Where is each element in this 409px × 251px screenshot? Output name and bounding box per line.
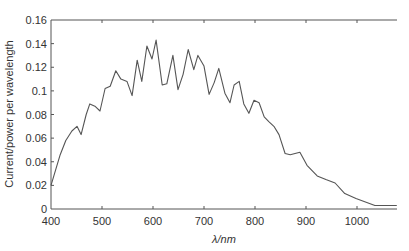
x-axis-ticks: 4005006007008009001000 [42,20,369,227]
plot-frame [51,20,397,209]
x-tick-label: 1000 [345,215,369,227]
y-tick-label: 0 [41,203,47,215]
y-tick-label: 0.14 [26,38,47,50]
data-line [51,40,397,205]
x-tick-label: 600 [144,215,162,227]
y-tick-label: 0.1 [32,85,47,97]
line-chart: 4005006007008009001000 00.020.040.060.08… [0,0,409,251]
y-tick-label: 0.12 [26,61,47,73]
y-tick-label: 0.04 [26,156,47,168]
y-axis-ticks: 00.020.040.060.080.10.120.140.16 [26,14,54,215]
x-tick-label: 500 [93,215,111,227]
x-tick-label: 700 [195,215,213,227]
y-tick-label: 0.08 [26,109,47,121]
y-axis-label: Current/power per wavelength [3,40,15,187]
x-tick-label: 900 [297,215,315,227]
x-tick-label: 800 [246,215,264,227]
x-axis-label: λ/nm [211,233,236,245]
x-tick-label: 400 [42,215,60,227]
y-tick-label: 0.06 [26,132,47,144]
y-tick-label: 0.02 [26,179,47,191]
y-tick-label: 0.16 [26,14,47,26]
